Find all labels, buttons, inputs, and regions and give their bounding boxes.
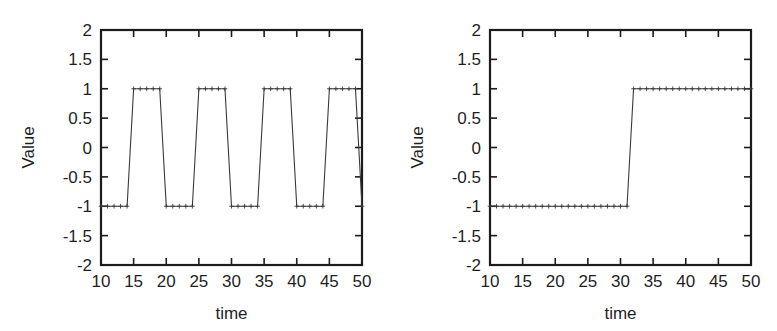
x-axis-title: time: [215, 304, 247, 323]
y-tick-label: -2: [466, 256, 481, 275]
y-tick-label: -2: [77, 256, 92, 275]
y-tick-label: 0.5: [68, 109, 92, 128]
y-tick-label: -1.5: [63, 227, 92, 246]
plot-frame: [490, 30, 751, 265]
x-tick-label: 50: [742, 272, 761, 291]
y-tick-label: 1: [83, 80, 92, 99]
chart-svg-right: -2-1.5-1-0.500.511.52101520253035404550t…: [389, 0, 777, 331]
y-tick-label: 0: [472, 139, 481, 158]
plot-frame: [101, 30, 362, 265]
data-point-markers: [488, 86, 754, 208]
y-tick-label: -0.5: [63, 168, 92, 187]
data-series-line: [490, 89, 751, 207]
y-tick-label: 2: [472, 21, 481, 40]
y-tick-label: 1.5: [457, 50, 481, 69]
x-tick-label: 25: [189, 272, 208, 291]
y-tick-label: -1: [77, 197, 92, 216]
y-tick-label: 2: [83, 21, 92, 40]
y-axis-title: Value: [408, 126, 427, 168]
y-tick-label: 1: [472, 80, 481, 99]
x-tick-label: 40: [676, 272, 695, 291]
x-tick-label: 35: [644, 272, 663, 291]
figure-container: -2-1.5-1-0.500.511.52101520253035404550t…: [0, 0, 777, 331]
y-tick-label: 0.5: [457, 109, 481, 128]
x-tick-label: 15: [124, 272, 143, 291]
chart-panel-left: -2-1.5-1-0.500.511.52101520253035404550t…: [0, 0, 388, 331]
x-tick-label: 20: [157, 272, 176, 291]
x-tick-label: 20: [546, 272, 565, 291]
x-tick-label: 30: [222, 272, 241, 291]
chart-svg-left: -2-1.5-1-0.500.511.52101520253035404550t…: [0, 0, 388, 331]
x-tick-label: 45: [709, 272, 728, 291]
y-tick-label: -1.5: [452, 227, 481, 246]
x-tick-label: 25: [578, 272, 597, 291]
data-point-markers: [99, 86, 365, 208]
y-tick-label: -1: [466, 197, 481, 216]
x-tick-label: 10: [481, 272, 500, 291]
data-series-line: [101, 89, 362, 207]
x-axis-title: time: [604, 304, 636, 323]
x-tick-label: 50: [353, 272, 372, 291]
x-tick-label: 15: [513, 272, 532, 291]
x-tick-label: 45: [320, 272, 339, 291]
y-tick-label: 1.5: [68, 50, 92, 69]
x-tick-label: 40: [287, 272, 306, 291]
chart-panel-right: -2-1.5-1-0.500.511.52101520253035404550t…: [389, 0, 777, 331]
x-tick-label: 30: [611, 272, 630, 291]
x-tick-label: 10: [92, 272, 111, 291]
y-tick-label: -0.5: [452, 168, 481, 187]
x-tick-label: 35: [255, 272, 274, 291]
y-tick-label: 0: [83, 139, 92, 158]
y-axis-title: Value: [19, 126, 38, 168]
